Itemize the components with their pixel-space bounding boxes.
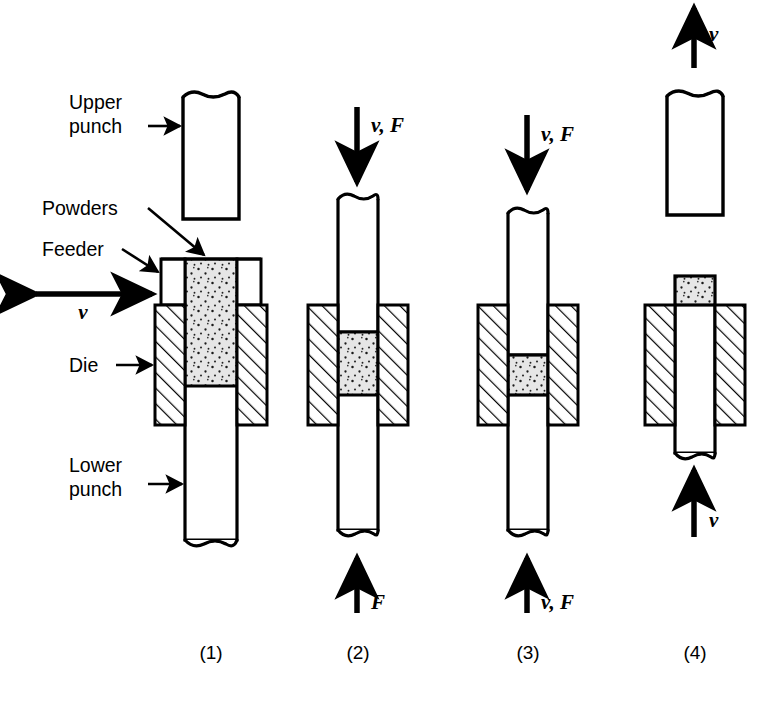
stage3-top-arrow: v, F	[527, 115, 574, 190]
stage2-bottom-arrow: F	[357, 558, 385, 614]
stage1-lower-punch	[185, 386, 237, 546]
callout-feeder: Feeder	[42, 238, 158, 272]
callout-lower-punch: Lower punch	[69, 454, 182, 500]
step-2-label: (2)	[346, 642, 369, 663]
stage-1-group: v Upper punch Powders Feeder Die Lower p…	[36, 91, 267, 663]
feeder-velocity-symbol: v	[78, 300, 88, 324]
stage2-top-arrow: v, F	[357, 107, 404, 182]
figure-canvas: v Upper punch Powders Feeder Die Lower p…	[0, 0, 773, 702]
callout-feeder-leader	[122, 249, 158, 272]
callout-lower-punch-line1: Lower	[69, 454, 123, 476]
stage3-upper-punch	[508, 208, 548, 355]
stage4-lower-punch	[675, 305, 715, 459]
stage4-top-arrow: v	[694, 8, 719, 68]
stage1-upper-punch	[183, 92, 239, 219]
stage-4-group: v v (4)	[645, 8, 745, 663]
stage2-upper-punch	[338, 194, 378, 332]
callout-feeder-label: Feeder	[42, 238, 104, 260]
stage1-powder-charge	[185, 259, 237, 386]
step-3-label: (3)	[516, 642, 539, 663]
stage2-lower-punch	[338, 395, 378, 536]
stage-3-group: v, F v, F (3)	[478, 115, 578, 663]
stage2-top-symbol: v, F	[371, 113, 404, 137]
stage1-feeder-velocity-arrow: v	[36, 294, 152, 324]
callout-die: Die	[69, 354, 152, 376]
stage3-compact	[508, 355, 548, 395]
callout-die-label: Die	[69, 354, 98, 376]
stage2-bottom-symbol: F	[370, 590, 385, 614]
stage3-top-symbol: v, F	[541, 122, 574, 146]
stage4-ejected-compact	[675, 276, 715, 305]
step-1-label: (1)	[199, 642, 222, 663]
callout-upper-punch-line2: punch	[69, 115, 122, 137]
stage3-bottom-arrow: v, F	[527, 558, 574, 614]
stage3-bottom-symbol: v, F	[541, 590, 574, 614]
callout-powders-label: Powders	[42, 197, 118, 219]
step-4-label: (4)	[683, 642, 706, 663]
stage3-lower-punch	[508, 395, 548, 536]
callout-lower-punch-line2: punch	[69, 478, 122, 500]
stage-2-group: v, F F (2)	[308, 107, 408, 663]
stage4-bottom-symbol: v	[709, 508, 719, 532]
stage2-powder-charge	[338, 332, 378, 395]
stage4-bottom-arrow: v	[694, 470, 719, 537]
pm-pressing-diagram: v Upper punch Powders Feeder Die Lower p…	[0, 0, 773, 702]
stage4-upper-punch	[667, 91, 723, 215]
callout-upper-punch-line1: Upper	[69, 91, 123, 113]
callout-upper-punch: Upper punch	[69, 91, 180, 137]
stage4-top-symbol: v	[709, 22, 719, 46]
